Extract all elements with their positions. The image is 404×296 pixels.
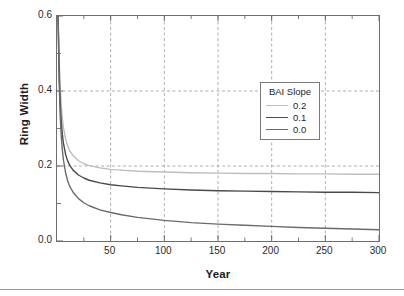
legend-line-swatch [266, 117, 288, 118]
y-tick-label: 0.2 [4, 159, 52, 170]
legend[interactable]: BAI Slope 0.20.10.0 [260, 82, 320, 140]
x-tick-label: 150 [195, 245, 239, 256]
chart-figure: Ring Width Year 0.00.20.40.6 50100150200… [0, 0, 404, 296]
y-tick-label: 0.6 [4, 9, 52, 20]
legend-item-label: 0.2 [293, 100, 306, 111]
data-series [58, 16, 379, 230]
x-tick-label: 200 [249, 245, 293, 256]
legend-item-label: 0.1 [293, 112, 306, 123]
x-tick-label: 300 [356, 245, 400, 256]
y-tick-label: 0.4 [4, 84, 52, 95]
footer-divider [0, 289, 404, 290]
x-axis-title: Year [55, 268, 381, 280]
legend-item[interactable]: 0.1 [266, 111, 314, 123]
legend-item[interactable]: 0.0 [266, 123, 314, 135]
x-tick-label: 100 [141, 245, 185, 256]
y-tick-label: 0.0 [4, 234, 52, 245]
plot-area [56, 15, 380, 242]
legend-line-swatch [266, 129, 288, 130]
legend-item[interactable]: 0.2 [266, 99, 314, 111]
plot-canvas [57, 16, 379, 241]
x-tick-label: 50 [88, 245, 132, 256]
legend-item-label: 0.0 [293, 124, 306, 135]
y-axis-title: Ring Width [18, 54, 30, 174]
legend-entries: 0.20.10.0 [266, 99, 314, 135]
legend-line-swatch [266, 105, 288, 106]
gridlines [57, 16, 379, 241]
x-tick-label: 250 [302, 245, 346, 256]
legend-title: BAI Slope [266, 86, 314, 97]
